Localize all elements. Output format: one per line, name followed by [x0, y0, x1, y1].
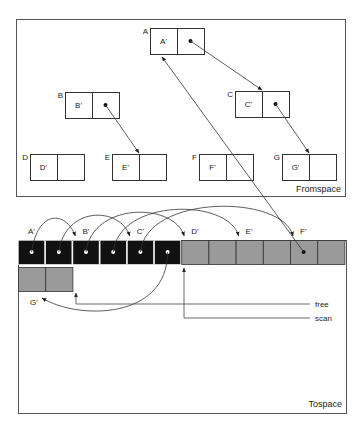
- tospace-label: Tospace: [308, 399, 342, 409]
- copy-label: F': [300, 227, 307, 236]
- copy-label: G': [30, 298, 38, 307]
- fromspace-object-g: GG': [274, 153, 337, 181]
- tospace-cell: [182, 241, 209, 265]
- forwarding-address: B': [75, 101, 82, 110]
- edge-a-c: [191, 41, 263, 90]
- object-name: F: [192, 153, 197, 162]
- forwarding-address: D': [40, 163, 48, 172]
- forwarding-address: G': [292, 163, 300, 172]
- tospace-copy-b: [73, 241, 126, 265]
- tospace-copy-a: [19, 241, 72, 265]
- tospace-cell: [318, 241, 345, 265]
- object-name: E: [105, 153, 110, 162]
- fromspace-object-f: FF': [192, 153, 253, 181]
- object-name: G: [274, 153, 280, 162]
- object-name: D: [22, 153, 28, 162]
- fromspace-object-b: BB': [58, 91, 120, 119]
- forwarding-address: E': [122, 163, 129, 172]
- fromspace-label: Fromspace: [296, 184, 341, 194]
- tospace-cell: [236, 241, 263, 265]
- tospace-copy-c: [127, 241, 180, 265]
- fromspace-object-c: CC': [227, 90, 289, 118]
- object-name: C: [227, 90, 233, 99]
- tospace-cell: [209, 241, 236, 265]
- tospace-copy-e: [236, 241, 290, 265]
- tospace-cell: [263, 241, 290, 265]
- tospace-copy-f: [291, 241, 345, 265]
- tospace-copy-d: [182, 241, 236, 265]
- edge-b-e: [106, 105, 140, 153]
- copy-label: C': [137, 227, 145, 236]
- fromspace-object-e: EE': [105, 153, 167, 181]
- tospace-copy-g: [19, 268, 73, 292]
- scan-pointer-arrow: [184, 268, 310, 318]
- fromspace-object-a: AA': [143, 27, 205, 55]
- free-pointer-arrow: [76, 293, 310, 304]
- fromspace-object-d: DD': [22, 153, 84, 181]
- forwarding-address: F': [209, 163, 216, 172]
- free-pointer-label: free: [315, 300, 329, 309]
- copy-label: A': [28, 227, 35, 236]
- tospace-cell: [46, 268, 73, 292]
- copying-gc-diagram: Fromspace AA'BB'CC'DD'EE'FF'GG' Tospace …: [0, 0, 364, 433]
- copy-label: B': [82, 227, 89, 236]
- object-name: A: [143, 27, 149, 36]
- copy-label: D': [191, 227, 199, 236]
- tospace-cell: [19, 268, 46, 292]
- edge-c-g: [276, 104, 310, 153]
- copy-label: E': [246, 227, 253, 236]
- scan-pointer-label: scan: [315, 314, 332, 323]
- object-name: B: [58, 91, 63, 100]
- forwarding-address: C': [245, 100, 253, 109]
- forwarding-address: A': [160, 37, 167, 46]
- tospace-frame: [19, 241, 347, 414]
